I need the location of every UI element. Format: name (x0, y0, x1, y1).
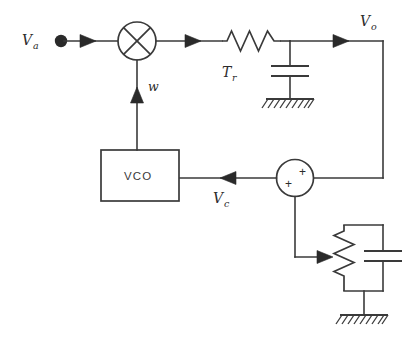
input-signal-subscript: a (33, 40, 39, 51)
arrow-mixer-output-icon (185, 35, 201, 48)
arrow-output-direction-icon (333, 35, 349, 48)
arrow-w-direction-icon (131, 87, 144, 103)
arrow-input-direction-icon (80, 35, 96, 48)
summing-junction-circle (277, 160, 314, 197)
mixer-feedback-label: w (148, 79, 159, 94)
tuning-ground-hatching-icon (336, 315, 388, 324)
control-signal-subscript: c (224, 198, 230, 209)
summer-plus-bottom-label: + (285, 177, 292, 191)
lowpass-ground-hatching-icon (262, 99, 314, 108)
circuit-diagram-canvas: + + VCO (0, 0, 405, 344)
lowpass-resistor-symbol (222, 31, 281, 51)
arrow-vc-direction-icon (220, 172, 236, 185)
output-signal-subscript: o (371, 21, 377, 32)
summer-plus-top-label: + (299, 165, 306, 179)
circuit-svg: + + VCO (0, 0, 405, 344)
potentiometer-resistor-symbol (334, 225, 354, 291)
time-constant-subscript: r (232, 72, 238, 83)
vco-block-label: VCO (124, 170, 152, 182)
arrow-wiper-direction-icon (317, 251, 333, 264)
